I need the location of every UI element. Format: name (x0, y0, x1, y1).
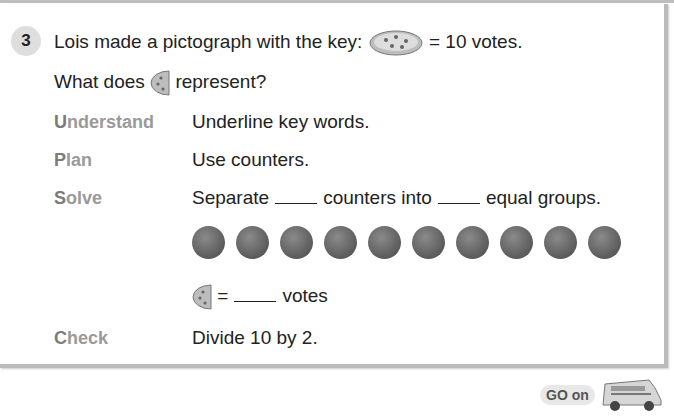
bus-icon (595, 378, 665, 412)
counter (192, 226, 225, 259)
answer-blank-votes[interactable] (234, 300, 276, 302)
counter (280, 226, 313, 259)
counter (544, 226, 577, 259)
answer-blank-groups[interactable] (438, 202, 480, 204)
go-on-indicator: GO on (540, 378, 665, 412)
equation-line: =votes (192, 284, 328, 310)
half-pizza-icon (192, 284, 212, 310)
half-pizza-icon (150, 70, 170, 96)
check-text: Divide 10 by 2. (192, 327, 318, 349)
top-border (0, 0, 674, 3)
solve-text: Separatecounters intoequal groups. (192, 187, 601, 209)
solve-label: Solve (54, 188, 102, 209)
counter (412, 226, 445, 259)
check-label: Check (54, 328, 108, 349)
understand-label: Understand (54, 112, 154, 133)
counter (236, 226, 269, 259)
go-on-label: GO on (540, 385, 595, 405)
counter (368, 226, 401, 259)
problem-line-2: What does represent? (54, 70, 266, 96)
counter (324, 226, 357, 259)
counters-row (192, 226, 621, 259)
problem-number: 3 (11, 26, 41, 56)
plan-text: Use counters. (192, 149, 309, 171)
whole-pizza-icon (368, 28, 424, 58)
problem-panel: 3 Lois made a pictograph with the key: =… (0, 4, 668, 368)
answer-blank-counters[interactable] (275, 202, 317, 204)
counter (456, 226, 489, 259)
understand-text: Underline key words. (192, 111, 369, 133)
counter (500, 226, 533, 259)
plan-label: Plan (54, 150, 92, 171)
counter (588, 226, 621, 259)
problem-line-1: Lois made a pictograph with the key: = 1… (54, 28, 522, 58)
